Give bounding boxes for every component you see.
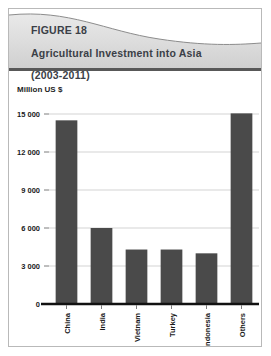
- bar-china: [56, 120, 78, 304]
- y-axis-tick-label: 9 000: [21, 186, 40, 195]
- bar-indonesia: [196, 253, 218, 304]
- x-axis-tick-labels: ChinaIndiaVietnamTurkeyIndonesiaOthers: [63, 312, 247, 346]
- y-axis-tick-label: 6 000: [21, 224, 40, 233]
- bar-india: [91, 228, 113, 304]
- bar-vietnam: [126, 250, 148, 304]
- x-axis-tick-label: China: [63, 312, 72, 334]
- y-axis-tick-label: 12 000: [17, 148, 40, 157]
- x-axis-ticks: [67, 305, 242, 309]
- y-axis-tick-label: 0: [36, 300, 40, 309]
- y-axis-tick-label: 3 000: [21, 262, 40, 271]
- bar-chart-svg: 03 0006 0009 00012 00015 000 ChinaIndiaV…: [9, 9, 261, 346]
- x-axis-tick-label: Turkey: [168, 312, 177, 337]
- x-axis-tick-label: Vietnam: [133, 313, 142, 342]
- bar-series: [56, 113, 253, 304]
- y-axis-tick-labels: 03 0006 0009 00012 00015 000: [17, 110, 40, 309]
- y-axis-tick-label: 15 000: [17, 110, 40, 119]
- bar-turkey: [161, 250, 183, 304]
- x-axis-tick-label: Others: [238, 313, 247, 337]
- figure-container: FIGURE 18 Agricultural Investment into A…: [8, 8, 262, 347]
- x-axis-tick-label: Indonesia: [203, 312, 212, 346]
- x-axis-tick-label: India: [98, 312, 107, 330]
- bar-others: [231, 113, 253, 304]
- chart-plot-area: 03 0006 0009 00012 00015 000 ChinaIndiaV…: [9, 9, 261, 346]
